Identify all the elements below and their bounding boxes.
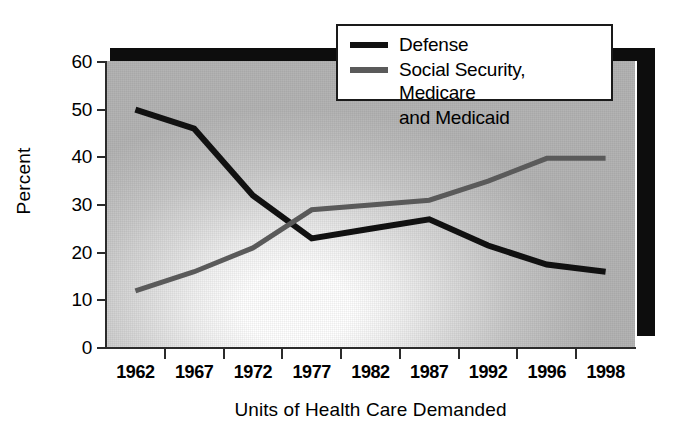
legend-label-social-line2: and Medicaid xyxy=(399,106,601,129)
series-line-social xyxy=(135,158,605,290)
legend-swatch-defense xyxy=(350,42,388,48)
legend-label-social: Social Security, Medicare xyxy=(399,58,601,104)
legend-item-defense: Defense xyxy=(348,33,601,56)
legend-item-social: Social Security, Medicare xyxy=(348,58,601,104)
series-line-defense xyxy=(135,110,605,272)
legend-swatch-social xyxy=(350,67,388,73)
legend-box: Defense Social Security, Medicare and Me… xyxy=(336,24,613,101)
legend-label-defense: Defense xyxy=(399,33,468,56)
chart-figure: 0102030405060 19621967197219771982198719… xyxy=(0,0,679,437)
